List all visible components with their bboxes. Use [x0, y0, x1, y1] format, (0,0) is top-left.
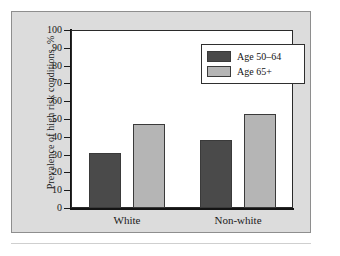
y-tick-label: 100 — [22, 25, 62, 35]
legend-item: Age 65+ — [207, 64, 299, 79]
y-tick-label: 40 — [22, 132, 62, 142]
y-tick-label: 60 — [22, 96, 62, 106]
bar — [244, 114, 276, 208]
bar — [133, 124, 165, 208]
y-tick-label: 20 — [22, 167, 62, 177]
y-tick-label: 0 — [22, 203, 62, 213]
x-axis-line — [70, 208, 294, 210]
legend-item-label: Age 50–64 — [237, 51, 281, 62]
y-tick-label: 90 — [22, 43, 62, 53]
legend-item-label: Age 65+ — [237, 66, 272, 77]
caption-separator — [11, 243, 311, 244]
legend-swatch-icon — [207, 66, 231, 77]
bar — [89, 153, 121, 208]
x-tick-label: White — [114, 214, 141, 226]
y-tick-label: 70 — [22, 78, 62, 88]
legend-swatch-icon — [207, 51, 231, 62]
y-tick-label: 80 — [22, 61, 62, 71]
y-tick-label: 30 — [22, 150, 62, 160]
chart-legend: Age 50–64 Age 65+ — [201, 44, 305, 84]
x-tick-label: Non-white — [214, 214, 261, 226]
legend-item: Age 50–64 — [207, 49, 299, 64]
y-tick-label: 50 — [22, 114, 62, 124]
y-tick-label: 10 — [22, 185, 62, 195]
figure-panel: Prevalence of high risk conditions, % 01… — [11, 11, 311, 233]
figure-root: Prevalence of high risk conditions, % 01… — [0, 0, 340, 256]
bar — [200, 140, 232, 208]
